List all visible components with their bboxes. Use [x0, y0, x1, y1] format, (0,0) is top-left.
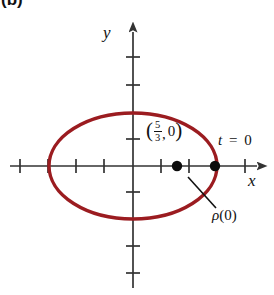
position-function-label: ρ(0) [212, 208, 237, 223]
x-axis-label: x [248, 172, 256, 189]
figure-container: (b) [0, 0, 274, 295]
coordinate-comma: , [162, 127, 166, 143]
point-marker-t-zero [210, 161, 220, 171]
rho-argument: (0) [219, 207, 237, 223]
parameter-value: 0 [244, 132, 252, 148]
y-axis-label: y [103, 24, 111, 41]
coordinate-close-paren: ) [175, 120, 182, 141]
fraction-five-thirds: 5 3 [154, 120, 162, 143]
fraction-numerator: 5 [154, 120, 161, 131]
point-coordinate-label: ( 5 3 , 0 ) [146, 120, 182, 143]
parameter-variable: t [218, 132, 222, 148]
y-axis [126, 32, 140, 288]
parameter-equals: = [229, 132, 237, 148]
coordinate-second-value: 0 [168, 124, 176, 139]
parameter-label: t = 0 [218, 133, 252, 148]
coordinate-open-paren: ( [146, 120, 153, 141]
fraction-denominator: 3 [154, 133, 161, 144]
point-marker-five-thirds [172, 161, 182, 171]
